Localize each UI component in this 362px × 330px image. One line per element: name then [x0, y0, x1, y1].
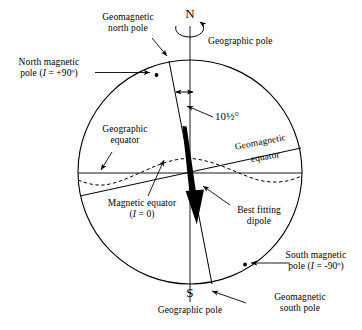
- leader-best-fitting-dipole: [203, 186, 230, 205]
- label-magnetic-equator-line1: Magnetic equator: [94, 198, 190, 209]
- label-geographic-pole-top: Geographic pole: [208, 36, 273, 47]
- label-magnetic-equator: Magnetic equator (I = 0): [94, 198, 190, 220]
- npole-inclination-value: = +90º): [46, 68, 78, 78]
- leader-geomagnetic-south-pole: [212, 291, 246, 303]
- label-tilt-angle: 10½°: [215, 111, 239, 122]
- label-geographic-equator-line1: Geographic: [86, 124, 164, 135]
- label-best-fitting-dipole: Best fitting dipole: [222, 205, 296, 227]
- label-south-magnetic-pole-line1: South magnetic: [270, 250, 362, 261]
- label-south-pole-letter: S: [178, 287, 202, 298]
- label-best-fitting-dipole-line2: dipole: [222, 216, 296, 227]
- label-north-magnetic-pole-line2: pole (I = +90º): [3, 68, 95, 79]
- label-geomagnetic-south-pole-line2: south pole: [248, 303, 352, 314]
- label-geomagnetic-south-pole-line1: Geomagnetic: [248, 292, 352, 303]
- leader-tilt-angle: [187, 106, 213, 117]
- label-geographic-pole-bottom: Geographic pole: [135, 305, 245, 316]
- label-geomagnetic-north-pole: Geomagnetic north pole: [76, 12, 180, 34]
- label-south-magnetic-pole-line2: pole (I = -90º): [270, 261, 362, 272]
- south-magnetic-pole-dot: [243, 263, 247, 267]
- label-geomagnetic-north-pole-line2: north pole: [76, 23, 180, 34]
- label-geomagnetic-south-pole: Geomagnetic south pole: [248, 292, 352, 314]
- diagram-canvas: [0, 0, 362, 330]
- npole-paren-open: pole (: [20, 68, 43, 78]
- label-best-fitting-dipole-line1: Best fitting: [222, 205, 296, 216]
- leader-geographic-equator: [101, 152, 112, 170]
- label-geographic-equator: Geographic equator: [86, 124, 164, 146]
- label-north-magnetic-pole-line1: North magnetic: [3, 57, 95, 68]
- label-geomagnetic-north-pole-line1: Geomagnetic: [76, 12, 180, 23]
- label-magnetic-equator-line2: (I = 0): [94, 209, 190, 220]
- label-north-magnetic-pole: North magnetic pole (I = +90º): [3, 57, 95, 79]
- label-north-pole-letter: N: [178, 8, 202, 19]
- leader-geomagnetic-north-pole: [152, 38, 167, 56]
- spole-paren-open: pole (: [288, 261, 311, 271]
- spole-inclination-value: = -90º): [314, 261, 344, 271]
- meq-inclination-value: = 0): [136, 209, 155, 219]
- north-magnetic-pole-dot: [155, 73, 159, 77]
- label-south-magnetic-pole: South magnetic pole (I = -90º): [270, 250, 362, 272]
- geomagnetic-diagram: Geomagnetic north pole N Geographic pole…: [0, 0, 362, 330]
- label-geographic-equator-line2: equator: [86, 135, 164, 146]
